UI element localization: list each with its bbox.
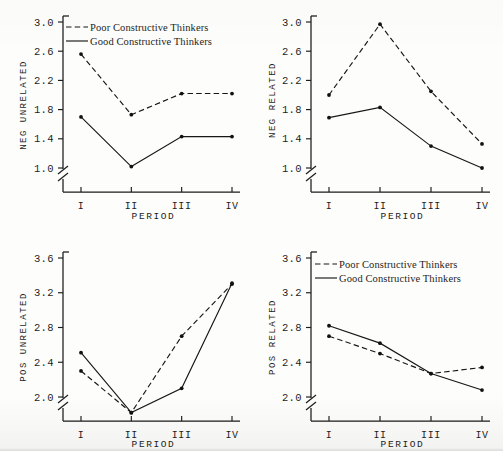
data-point <box>429 144 433 148</box>
series-line-poor <box>81 284 232 413</box>
y-tick-label: 1.8 <box>34 104 54 116</box>
chart-panel-neg-unrelated: 1.01.41.82.22.63.0IIIIIIIVPERIODNEG UNRE… <box>0 0 255 225</box>
legend-label: Good Constructive Thinkers <box>90 36 212 47</box>
y-tick-label: 2.6 <box>34 46 54 58</box>
data-point <box>378 352 382 356</box>
chart-canvas: 1.01.41.82.22.63.0IIIIIIIVPERIODNEG UNRE… <box>0 0 255 225</box>
data-point <box>327 334 331 338</box>
y-axis-title: NEG RELATED <box>268 62 278 138</box>
y-tick-label: 1.8 <box>282 104 302 116</box>
y-tick-label: 3.6 <box>282 253 302 265</box>
chart-panel-neg-related: 1.01.41.82.22.63.0IIIIIIIVPERIODNEG RELA… <box>255 0 503 225</box>
data-point <box>79 52 83 56</box>
data-point <box>327 324 331 328</box>
y-tick-label: 2.0 <box>34 392 54 404</box>
series-line-poor <box>81 54 232 115</box>
y-axis-title: POS RELATED <box>268 299 278 375</box>
y-tick-label: 3.0 <box>34 17 54 29</box>
data-point <box>378 341 382 345</box>
data-point <box>230 281 234 285</box>
x-tick-label: IV <box>225 201 238 212</box>
y-tick-label: 2.6 <box>282 46 302 58</box>
data-point <box>180 386 184 390</box>
data-point <box>327 116 331 120</box>
data-point <box>480 166 484 170</box>
chart-canvas: 1.01.41.82.22.63.0IIIIIIIVPERIODNEG RELA… <box>255 0 503 225</box>
x-tick-label: IV <box>475 201 488 212</box>
y-axis-title: POS UNRELATED <box>19 292 29 382</box>
y-tick-label: 2.2 <box>34 75 54 87</box>
series-line-good <box>81 117 232 167</box>
y-tick-label: 2.4 <box>282 357 302 369</box>
x-tick-label: I <box>326 430 333 441</box>
data-point <box>480 366 484 370</box>
data-point <box>180 135 184 139</box>
data-point <box>480 388 484 392</box>
y-tick-label: 1.0 <box>34 163 54 175</box>
y-axis-title: NEG UNRELATED <box>19 60 29 150</box>
data-point <box>180 92 184 96</box>
data-point <box>230 92 234 96</box>
y-tick-label: 1.0 <box>282 163 302 175</box>
series-line-good <box>329 107 482 168</box>
data-point <box>180 334 184 338</box>
chart-canvas: 2.02.42.83.23.6IIIIIIIVPERIODPOS RELATED… <box>255 225 503 451</box>
y-tick-label: 1.4 <box>282 133 302 145</box>
data-point <box>429 372 433 376</box>
data-point <box>79 369 83 373</box>
x-axis-title: PERIOD <box>132 211 176 222</box>
series-line-good <box>81 283 232 412</box>
chart-panel-pos-related: 2.02.42.83.23.6IIIIIIIVPERIODPOS RELATED… <box>255 225 503 451</box>
y-tick-label: 2.8 <box>34 322 54 334</box>
y-tick-label: 2.4 <box>34 357 54 369</box>
data-point <box>129 165 133 169</box>
series-line-poor <box>329 24 482 144</box>
chart-canvas: 2.02.42.83.23.6IIIIIIIVPERIODPOS UNRELAT… <box>0 225 255 451</box>
data-point <box>480 142 484 146</box>
data-point <box>129 113 133 117</box>
series-line-good <box>329 326 482 390</box>
y-tick-label: 2.0 <box>282 392 302 404</box>
data-point <box>79 351 83 355</box>
y-tick-label: 1.4 <box>34 133 54 145</box>
legend-label: Poor Constructive Thinkers <box>339 259 457 270</box>
x-tick-label: I <box>326 201 333 212</box>
y-tick-label: 3.2 <box>282 287 302 299</box>
data-point <box>129 411 133 415</box>
data-point <box>327 93 331 97</box>
y-tick-label: 3.6 <box>34 253 54 265</box>
data-point <box>378 106 382 110</box>
x-tick-label: I <box>78 430 85 441</box>
chart-panel-pos-unrelated: 2.02.42.83.23.6IIIIIIIVPERIODPOS UNRELAT… <box>0 225 255 451</box>
y-tick-label: 2.8 <box>282 322 302 334</box>
x-tick-label: I <box>78 201 85 212</box>
series-line-poor <box>329 336 482 373</box>
x-tick-label: IV <box>225 430 238 441</box>
legend-label: Good Constructive Thinkers <box>339 273 461 284</box>
x-tick-label: IV <box>475 430 488 441</box>
y-tick-label: 3.0 <box>282 17 302 29</box>
x-axis-title: PERIOD <box>381 211 425 222</box>
y-tick-label: 3.2 <box>34 287 54 299</box>
data-point <box>378 22 382 26</box>
data-point <box>429 89 433 93</box>
data-point <box>79 115 83 119</box>
y-tick-label: 2.2 <box>282 75 302 87</box>
figure-grid: 1.01.41.82.22.63.0IIIIIIIVPERIODNEG UNRE… <box>0 0 503 451</box>
data-point <box>230 135 234 139</box>
legend-label: Poor Constructive Thinkers <box>90 22 208 33</box>
